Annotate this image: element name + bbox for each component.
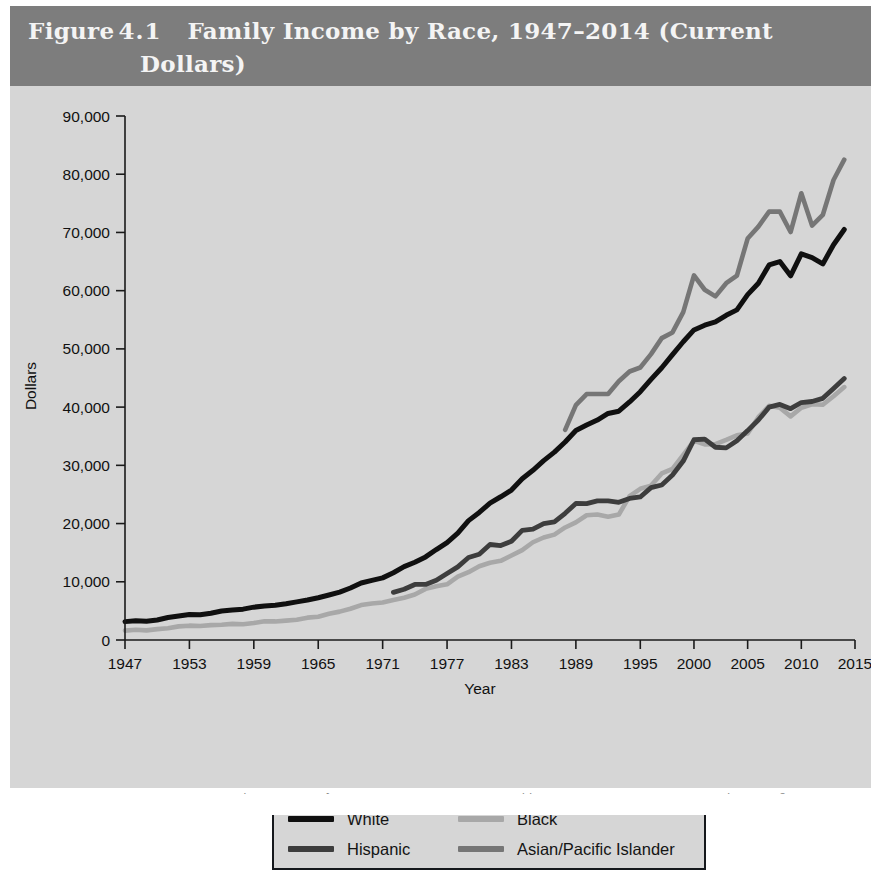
y-tick-label: 10,000 xyxy=(63,573,111,590)
legend-item-asian-pacific-islander[interactable]: Asian/Pacific Islander xyxy=(458,840,694,859)
y-tick-label: 90,000 xyxy=(63,108,111,125)
x-tick-label: 2010 xyxy=(784,655,819,672)
x-tick-label: 2015 xyxy=(838,655,871,672)
data-series-group xyxy=(125,160,844,631)
x-tick-label: 1965 xyxy=(301,655,335,672)
y-tick-label: 70,000 xyxy=(63,224,111,241)
source-caption-text: Source: U.S. Census Bureau, Current Popu… xyxy=(8,793,868,794)
figure-title-line2: Dollars) xyxy=(140,47,848,80)
y-tick-label: 80,000 xyxy=(63,166,111,183)
legend-swatch-asian-pacific-islander xyxy=(458,846,504,852)
figure-title-line1: Family Income by Race, 1947–2014 (Curren… xyxy=(187,17,773,44)
x-tick-label: 1971 xyxy=(365,655,399,672)
x-axis-title: Year xyxy=(464,680,495,697)
figure-title-band: Figure4.1Family Income by Race, 1947–201… xyxy=(10,6,871,86)
y-tick-label: 0 xyxy=(101,632,110,649)
x-tick-label: 1947 xyxy=(108,655,142,672)
y-axis-title: Dollars xyxy=(22,362,39,410)
x-tick-label: 1995 xyxy=(623,655,657,672)
legend-swatch-hispanic xyxy=(288,846,334,852)
legend-label-asian-pacific-islander: Asian/Pacific Islander xyxy=(517,840,675,859)
figure-number: 4.1 xyxy=(118,17,161,44)
legend-label-hispanic: Hispanic xyxy=(347,840,410,859)
x-axis-ticks: 1947195319591965197119771983198919952000… xyxy=(108,640,871,672)
x-tick-label: 1989 xyxy=(559,655,593,672)
legend-swatch-white xyxy=(288,816,334,822)
x-tick-label: 2005 xyxy=(730,655,764,672)
y-axis-ticks: 010,00020,00030,00040,00050,00060,00070,… xyxy=(63,108,125,649)
figure-label-text: Figure xyxy=(28,17,114,44)
y-tick-label: 30,000 xyxy=(63,457,111,474)
x-tick-label: 1977 xyxy=(430,655,464,672)
x-tick-label: 1953 xyxy=(172,655,206,672)
figure-container: Figure4.1Family Income by Race, 1947–201… xyxy=(10,6,871,788)
line-chart: 010,00020,00030,00040,00050,00060,00070,… xyxy=(10,86,871,788)
legend-swatch-black xyxy=(458,816,504,822)
x-tick-label: 2000 xyxy=(677,655,712,672)
figure-title: Figure4.1Family Income by Race, 1947–201… xyxy=(28,14,848,80)
source-caption-strip: Source: U.S. Census Bureau, Current Popu… xyxy=(0,793,873,815)
y-tick-label: 50,000 xyxy=(63,340,111,357)
x-tick-label: 1983 xyxy=(494,655,528,672)
x-tick-label: 1959 xyxy=(237,655,271,672)
legend-item-hispanic[interactable]: Hispanic xyxy=(288,840,458,859)
y-tick-label: 40,000 xyxy=(63,399,111,416)
y-tick-label: 20,000 xyxy=(63,515,111,532)
plot-area: 010,00020,00030,00040,00050,00060,00070,… xyxy=(10,86,871,788)
figure-label: Figure xyxy=(28,17,114,44)
series-line-asian-pacific-islander xyxy=(565,160,844,430)
y-tick-label: 60,000 xyxy=(63,282,111,299)
